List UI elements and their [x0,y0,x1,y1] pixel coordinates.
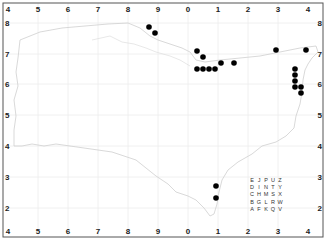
y-tick-label-left: 2 [5,204,10,213]
record-dot [218,60,224,66]
x-tick-label-bottom: 5 [36,227,41,236]
x-tick-label-top: 9 [156,5,161,14]
y-tick-label-right: 4 [318,142,323,151]
legend-letter: Y [278,184,282,190]
y-tick-label-left: 6 [5,80,10,89]
legend-letter: M [264,191,269,197]
legend-letter: J [258,177,261,183]
legend-letter: E [250,177,254,183]
record-dot [231,60,237,66]
legend-letter: U [271,177,275,183]
y-tick-label-right: 2 [318,204,323,213]
x-tick-label-top: 7 [96,5,101,14]
record-dot [212,66,218,72]
record-dot [298,90,304,96]
x-tick-label-top: 1 [216,5,221,14]
legend-letter: B [250,199,254,205]
record-dot [213,195,219,201]
legend-letter: A [250,206,254,212]
x-tick-label-bottom: 0 [186,227,191,236]
legend-letter: Q [271,206,276,212]
legend-letter: W [277,199,283,205]
x-tick-label-top: 4 [306,5,311,14]
y-tick-label-left: 5 [5,111,10,120]
y-tick-label-right: 3 [318,173,323,182]
x-tick-label-bottom: 4 [6,227,11,236]
x-tick-label-bottom: 3 [276,227,281,236]
legend-letter: S [271,191,275,197]
record-dot [303,47,309,53]
x-tick-label-top: 2 [246,5,251,14]
legend-letter: N [264,184,268,190]
record-dot [292,78,298,84]
record-dot [273,47,279,53]
record-dot [194,66,200,72]
x-tick-label-top: 5 [36,5,41,14]
legend-letter: X [278,191,282,197]
record-dot [200,54,206,60]
x-tick-label-bottom: 7 [96,227,101,236]
record-dot [152,30,158,36]
legend-letter: D [250,184,254,190]
legend-letter: H [257,191,261,197]
y-tick-label-right: 8 [318,19,323,28]
record-dot [146,24,152,30]
legend-letter: G [257,199,261,205]
record-dot [206,66,212,72]
record-dot [292,84,298,90]
y-tick-label-left: 3 [5,173,10,182]
record-dot [292,66,298,72]
y-tick-label-left: 4 [5,142,10,151]
legend-letter: L [264,199,267,205]
x-tick-label-top: 6 [66,5,71,14]
x-tick-label-bottom: 6 [66,227,71,236]
record-dot [213,183,219,189]
x-tick-label-bottom: 4 [306,227,311,236]
legend-letter: C [250,191,254,197]
legend-letter: R [271,199,275,205]
y-tick-label-right: 7 [318,50,323,59]
y-tick-label-left: 8 [5,19,10,28]
record-dot [194,48,200,54]
y-tick-label-right: 6 [318,80,323,89]
x-tick-label-top: 8 [126,5,131,14]
legend-letter: P [264,177,268,183]
x-tick-label-top: 0 [186,5,191,14]
distribution-map: 45678901234 45678901234 8765432 8765432 … [0,0,327,245]
y-tick-label-right: 5 [318,111,323,120]
record-dot [298,84,304,90]
x-tick-label-bottom: 9 [156,227,161,236]
x-tick-label-top: 3 [276,5,281,14]
x-tick-label-top: 4 [6,5,11,14]
x-tick-label-bottom: 8 [126,227,131,236]
legend-letter: K [264,206,268,212]
record-dot [200,66,206,72]
y-tick-label-left: 7 [5,50,10,59]
x-tick-label-bottom: 1 [216,227,221,236]
record-dot [292,72,298,78]
legend-letter: V [278,206,282,212]
x-tick-label-bottom: 2 [246,227,251,236]
